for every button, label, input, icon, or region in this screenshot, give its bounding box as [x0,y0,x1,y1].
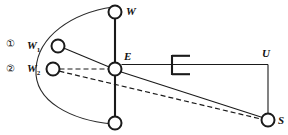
figure-root: ① ② W W1 W2 E U S [0,0,288,135]
node-bottom [109,117,122,130]
wire-w2-to-s [59,71,262,119]
label-node-w2-base: W [27,62,37,74]
node-w1 [52,40,65,53]
wire-w1-to-e [64,48,108,67]
wire-e-to-s [121,72,263,118]
path-marker-1: ① [6,39,15,49]
node-e [109,63,122,76]
label-node-w2: W2 [27,63,40,77]
label-node-w2-subscript: 2 [37,69,41,77]
label-node-u: U [262,48,270,59]
node-s [262,114,275,127]
label-node-e: E [124,51,131,62]
diagram-canvas [0,0,288,135]
label-node-w1: W1 [27,40,40,54]
node-w2 [47,63,60,76]
label-node-w: W [126,6,136,17]
node-w [109,6,122,19]
label-node-s: S [278,115,284,126]
label-node-w1-subscript: 1 [37,46,41,54]
path-marker-2: ② [6,64,15,74]
label-node-w1-base: W [27,39,37,51]
